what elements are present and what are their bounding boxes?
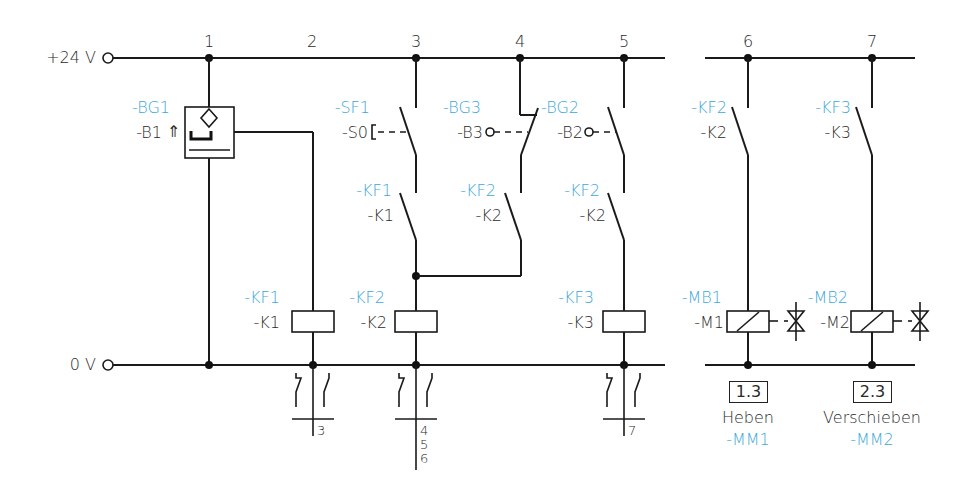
path-number: 5 <box>614 34 634 50</box>
contact-kf1-code: -K1 <box>320 208 394 224</box>
valve-mb1-code: -M1 <box>660 315 724 331</box>
contact-kf2-code: -K2 <box>655 125 727 141</box>
sensor-bg3-id: -BG3 <box>415 100 481 116</box>
contact-ref: 3 <box>317 423 325 439</box>
contact-kf3-code: -K3 <box>779 125 851 141</box>
sensor-bg1-id: -BG1 <box>110 100 170 116</box>
contact-kf3-id: -KF3 <box>779 100 851 116</box>
coil-kf1-code: -K1 <box>210 315 280 331</box>
coil-kf3 <box>603 311 645 332</box>
switch-sf1-id: -SF1 <box>300 100 370 116</box>
path-number: 2 <box>302 34 322 50</box>
sensor-bg2-code: -B2 <box>520 125 583 141</box>
contact-ref: 6 <box>420 451 428 467</box>
coil-kf3-code: -K3 <box>520 315 594 331</box>
valve-mb2-code: -M2 <box>790 315 850 331</box>
terminal-0v <box>103 360 113 370</box>
rail-0v-label: 0 V <box>30 357 96 373</box>
contact-kf2-id: -KF2 <box>424 183 496 199</box>
coil-kf3-id: -KF3 <box>520 290 594 306</box>
contact-kf2-code: -K2 <box>424 208 502 224</box>
valve-mb2-id: -MB2 <box>790 290 848 306</box>
valve-mb2-actuator: -MM2 <box>822 432 922 448</box>
coil-kf1-id: -KF1 <box>210 290 280 306</box>
sensor-bg1-code: -B1 <box>110 125 162 141</box>
valve-mb1-id: -MB1 <box>660 290 722 306</box>
path-number: 1 <box>199 34 219 50</box>
sensor-bg3-code: -B3 <box>415 125 483 141</box>
path-number: 6 <box>738 34 758 50</box>
path-number: 7 <box>862 34 882 50</box>
switch-sf1-code: -S0 <box>300 125 368 141</box>
coil-kf2-code: -K2 <box>315 315 387 331</box>
contact-table-k2 <box>395 365 437 470</box>
contact-ref: 7 <box>628 423 636 439</box>
valve-ref-box: 2.3 <box>853 381 892 403</box>
contact-kf2-id: -KF2 <box>655 100 727 116</box>
path-number: 4 <box>510 34 530 50</box>
coil-kf2 <box>395 311 437 332</box>
valve-mb1-actuator: -MM1 <box>708 432 788 448</box>
sensor-contact-bg2 <box>608 107 624 155</box>
valve-mb2-name: Verschieben <box>822 410 922 426</box>
path-number: 3 <box>406 34 426 50</box>
terminal-24v <box>103 53 113 63</box>
contact-table-k1 <box>292 365 334 436</box>
contact-table-k3 <box>603 365 645 436</box>
contact-kf1-id: -KF1 <box>320 183 392 199</box>
contact-kf2-code: -K2 <box>528 208 606 224</box>
rail-24v-label: +24 V <box>30 50 96 66</box>
arrow-up-icon: ⇑ <box>167 124 180 140</box>
switch-sf1 <box>400 107 416 155</box>
sensor-bg2-id: -BG2 <box>541 100 579 116</box>
contact-kf2-id: -KF2 <box>528 183 600 199</box>
valve-ref-box: 1.3 <box>729 381 768 403</box>
valve-mb1-name: Heben <box>708 410 788 426</box>
coil-kf2-id: -KF2 <box>315 290 385 306</box>
